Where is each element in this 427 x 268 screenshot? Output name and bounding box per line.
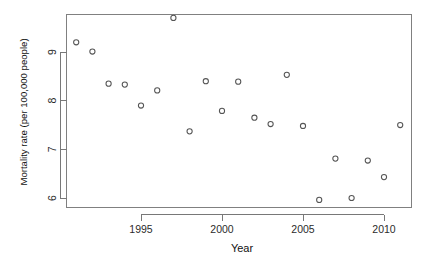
y-tick-label: 6 (46, 195, 58, 201)
data-point (155, 88, 160, 93)
x-axis-ticks (141, 215, 384, 222)
data-point (236, 79, 241, 84)
x-axis-tick-labels: 1995200020052010 (129, 223, 396, 235)
plot-canvas: 6789 1995200020052010 Year Mortality rat… (0, 0, 427, 268)
data-point (349, 195, 354, 200)
data-point (268, 121, 273, 126)
data-point (122, 82, 127, 87)
data-point (284, 72, 289, 77)
data-point-series (74, 15, 403, 202)
y-axis-tick-labels: 6789 (46, 49, 58, 201)
data-point (138, 103, 143, 108)
data-point (317, 197, 322, 202)
data-point (90, 49, 95, 54)
y-tick-label: 8 (46, 98, 58, 104)
x-tick-label: 2005 (291, 223, 315, 235)
data-point (171, 15, 176, 20)
data-point (74, 40, 79, 45)
data-point (333, 156, 338, 161)
data-point (187, 129, 192, 134)
data-point (381, 174, 386, 179)
data-point (398, 122, 403, 127)
y-axis-ticks (60, 52, 67, 198)
data-point (365, 158, 370, 163)
data-point (300, 123, 305, 128)
x-tick-label: 2000 (210, 223, 234, 235)
data-point (219, 108, 224, 113)
scatter-plot-figure: 6789 1995200020052010 Year Mortality rat… (0, 0, 427, 268)
x-tick-label: 2010 (372, 223, 396, 235)
x-tick-label: 1995 (129, 223, 153, 235)
data-point (252, 115, 257, 120)
x-axis-title: Year (231, 242, 254, 254)
data-point (106, 81, 111, 86)
y-axis-title: Mortality rate (per 100,000 people) (18, 38, 29, 185)
plot-frame (67, 15, 412, 208)
y-tick-label: 9 (46, 49, 58, 55)
data-point (203, 79, 208, 84)
y-tick-label: 7 (46, 146, 58, 152)
